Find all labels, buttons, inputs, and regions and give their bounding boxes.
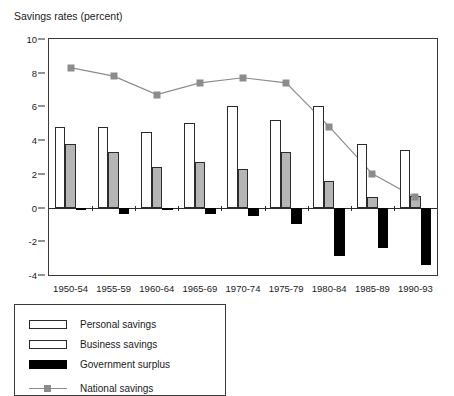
y-tick-label: 10 xyxy=(26,34,37,45)
chart-title: Savings rates (percent) xyxy=(14,10,123,22)
bar-business-savings-1960-64 xyxy=(152,167,163,207)
legend-label: Business savings xyxy=(80,339,157,350)
bar-government-surplus-1975-79 xyxy=(291,208,302,225)
bar-business-savings-1985-89 xyxy=(367,197,378,207)
y-tick-mark xyxy=(38,173,45,174)
x-tick-label: 1985-89 xyxy=(355,283,390,294)
legend-label: Government surplus xyxy=(80,359,170,370)
line-marker-1955-59 xyxy=(110,73,117,80)
x-tick-label: 1960-64 xyxy=(139,283,174,294)
y-tick-label: 8 xyxy=(32,67,37,78)
y-tick-label: 4 xyxy=(32,135,37,146)
x-tick-mark xyxy=(351,206,352,211)
bar-government-surplus-1990-93 xyxy=(421,208,432,265)
y-tick-mark xyxy=(38,241,45,242)
line-marker-swatch xyxy=(29,384,67,393)
y-tick-label: -4 xyxy=(29,270,37,281)
bar-government-surplus-1985-89 xyxy=(378,208,389,248)
bar-government-surplus-1980-84 xyxy=(334,208,345,257)
line-marker-1980-84 xyxy=(326,123,333,130)
legend: Personal savingsBusiness savingsGovernme… xyxy=(14,304,226,396)
y-tick-mark xyxy=(38,207,45,208)
x-tick-mark xyxy=(135,206,136,211)
bar-government-surplus-1970-74 xyxy=(248,208,259,216)
bar-personal-savings-1990-93 xyxy=(400,150,411,207)
bar-personal-savings-1950-54 xyxy=(55,127,66,208)
y-axis: 1086420-2-4 xyxy=(0,38,48,276)
y-tick-label: 6 xyxy=(32,101,37,112)
line-marker-1990-93 xyxy=(412,194,419,201)
line-marker-1960-64 xyxy=(153,91,160,98)
legend-item-government-surplus[interactable]: Government surplus xyxy=(29,357,170,371)
x-tick-mark xyxy=(221,206,222,211)
bar-personal-savings-1960-64 xyxy=(141,132,152,208)
legend-label: Personal savings xyxy=(80,319,156,330)
x-tick-mark xyxy=(92,206,93,211)
x-tick-mark xyxy=(394,206,395,211)
bar-business-savings-1950-54 xyxy=(65,144,76,208)
bar-business-savings-1965-69 xyxy=(195,162,206,208)
personal-swatch xyxy=(29,320,67,329)
bar-business-savings-1975-79 xyxy=(281,152,292,208)
y-tick-mark xyxy=(38,140,45,141)
bar-personal-savings-1970-74 xyxy=(227,106,238,207)
x-tick-mark xyxy=(265,206,266,211)
bar-business-savings-1980-84 xyxy=(324,181,335,208)
line-marker-1985-89 xyxy=(369,170,376,177)
line-marker-1965-69 xyxy=(196,79,203,86)
bar-government-surplus-1965-69 xyxy=(205,208,216,215)
bar-personal-savings-1955-59 xyxy=(98,127,109,208)
y-tick-mark xyxy=(38,72,45,73)
bar-government-surplus-1960-64 xyxy=(162,208,173,210)
legend-item-business-savings[interactable]: Business savings xyxy=(29,337,157,351)
y-tick-label: 2 xyxy=(32,168,37,179)
y-tick-mark xyxy=(38,106,45,107)
plot-frame xyxy=(48,38,438,276)
bar-government-surplus-1950-54 xyxy=(76,208,87,210)
x-tick-mark xyxy=(178,206,179,211)
bar-personal-savings-1985-89 xyxy=(357,144,368,208)
x-axis: 1950-541955-591960-641965-691970-741975-… xyxy=(48,281,438,297)
x-tick-label: 1955-59 xyxy=(96,283,131,294)
x-tick-label: 1980-84 xyxy=(312,283,347,294)
x-tick-label: 1950-54 xyxy=(53,283,88,294)
bar-business-savings-1955-59 xyxy=(108,152,119,208)
bar-personal-savings-1965-69 xyxy=(184,123,195,207)
x-tick-label: 1975-79 xyxy=(269,283,304,294)
bar-personal-savings-1975-79 xyxy=(270,120,281,208)
y-tick-mark xyxy=(38,39,45,40)
y-tick-label: -2 xyxy=(29,236,37,247)
legend-item-personal-savings[interactable]: Personal savings xyxy=(29,317,156,331)
legend-label: National savings xyxy=(80,383,153,394)
business-swatch xyxy=(29,340,67,349)
bar-personal-savings-1980-84 xyxy=(313,106,324,207)
bar-government-surplus-1955-59 xyxy=(119,208,130,215)
plot-area xyxy=(49,39,437,275)
x-tick-label: 1965-69 xyxy=(182,283,217,294)
y-tick-mark xyxy=(38,275,45,276)
line-marker-1975-79 xyxy=(283,79,290,86)
x-tick-label: 1990-93 xyxy=(398,283,433,294)
legend-item-national-savings[interactable]: National savings xyxy=(29,381,153,395)
line-marker-1970-74 xyxy=(240,74,247,81)
x-tick-mark xyxy=(308,206,309,211)
x-tick-label: 1970-74 xyxy=(226,283,261,294)
line-marker-1950-54 xyxy=(67,64,74,71)
y-tick-label: 0 xyxy=(32,202,37,213)
bar-business-savings-1970-74 xyxy=(238,169,249,208)
government-swatch xyxy=(29,360,67,369)
